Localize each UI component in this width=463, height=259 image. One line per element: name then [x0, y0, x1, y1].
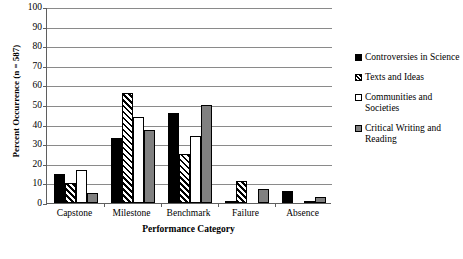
bar: [133, 117, 144, 203]
plot-area: [46, 8, 331, 204]
y-axis-tick-label: 90: [14, 23, 42, 33]
y-axis-tick-label: 60: [14, 82, 42, 92]
bar: [65, 183, 76, 203]
y-axis-tick-label: 20: [14, 160, 42, 170]
y-axis-tick-label: 10: [14, 180, 42, 190]
legend-swatch-icon: [355, 94, 362, 101]
y-axis-tick-labels: 0102030405060708090100: [14, 8, 42, 204]
legend-item-label: Controversies in Science: [365, 52, 459, 63]
x-axis-tick-mark: [104, 203, 105, 207]
bar: [76, 170, 87, 203]
x-axis-tick-label: Capstone: [46, 208, 103, 219]
x-axis-tick-labels: CapstoneMilestoneBenchmarkFailureAbsence: [46, 208, 331, 219]
bar: [225, 201, 236, 203]
legend-item-label: Communities and Societies: [365, 92, 461, 114]
x-axis-tick-label: Failure: [217, 208, 274, 219]
bar: [304, 201, 315, 203]
bar: [315, 197, 326, 203]
bar: [168, 113, 179, 203]
x-axis-title: Performance Category: [46, 224, 331, 234]
x-axis-tick-label: Benchmark: [160, 208, 217, 219]
bar-group: [161, 7, 218, 203]
legend-item: Communities and Societies: [355, 92, 461, 114]
legend-item: Controversies in Science: [355, 52, 461, 63]
x-axis-tick-label: Milestone: [103, 208, 160, 219]
x-axis-tick-label: Absence: [274, 208, 331, 219]
bar: [282, 191, 293, 203]
legend-swatch-icon: [355, 125, 362, 132]
y-axis-tick-label: 50: [14, 101, 42, 111]
legend-item: Texts and Ideas: [355, 72, 461, 83]
y-axis-tick-label: 30: [14, 140, 42, 150]
bar: [179, 154, 190, 203]
y-axis-tick-label: 40: [14, 121, 42, 131]
bar: [258, 189, 269, 203]
bar: [236, 181, 247, 203]
bar-group: [104, 7, 161, 203]
bar: [87, 193, 98, 203]
legend-item: Critical Writing and Reading: [355, 123, 461, 145]
legend-item-label: Critical Writing and Reading: [365, 123, 461, 145]
bar: [144, 130, 155, 203]
bar-chart-figure: Percent Occurrence (n = 587) 01020304050…: [0, 0, 463, 259]
bar-group: [218, 7, 275, 203]
x-axis-tick-mark: [275, 203, 276, 207]
x-axis-tick-mark: [161, 203, 162, 207]
bar: [111, 138, 122, 203]
y-axis-tick-label: 70: [14, 62, 42, 72]
legend-item-label: Texts and Ideas: [365, 72, 424, 83]
legend: Controversies in ScienceTexts and IdeasC…: [355, 52, 461, 154]
y-axis-tick-mark: [43, 204, 47, 205]
x-axis-tick-mark: [218, 203, 219, 207]
bar: [54, 174, 65, 203]
bar: [190, 136, 201, 203]
legend-swatch-icon: [355, 74, 362, 81]
y-axis-tick-label: 0: [14, 199, 42, 209]
y-axis-tick-label: 100: [14, 3, 42, 13]
y-axis-tick-label: 80: [14, 42, 42, 52]
bar: [122, 93, 133, 203]
bar: [201, 105, 212, 203]
legend-swatch-icon: [355, 54, 362, 61]
bar-group: [275, 7, 332, 203]
bar-group: [47, 7, 104, 203]
bar-groups: [47, 7, 332, 203]
